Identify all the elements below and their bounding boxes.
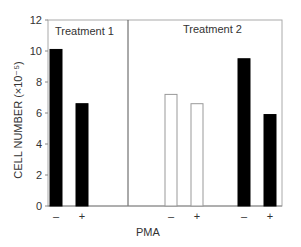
x-tick-label: – bbox=[53, 210, 60, 222]
bar-chart: 024681012 –+–+–+ Treatment 1 Treatment 2… bbox=[0, 0, 301, 247]
bar-1-2 bbox=[76, 104, 88, 206]
x-axis-ticks: –+–+–+ bbox=[53, 210, 273, 222]
bar-2-2 bbox=[191, 104, 203, 206]
y-tick-label: 0 bbox=[36, 200, 42, 212]
panel-label-treatment-1: Treatment 1 bbox=[55, 25, 114, 37]
y-tick-label: 8 bbox=[36, 76, 42, 88]
y-axis-title: CELL NUMBER (×10⁻⁵) bbox=[12, 61, 24, 178]
y-tick-label: 12 bbox=[30, 14, 42, 26]
panel-label-treatment-2: Treatment 2 bbox=[183, 23, 242, 35]
y-axis-ticks: 024681012 bbox=[30, 14, 48, 212]
bar-2-3 bbox=[238, 59, 250, 206]
x-tick-label: + bbox=[79, 210, 85, 222]
x-tick-label: – bbox=[168, 210, 175, 222]
x-tick-label: + bbox=[194, 210, 200, 222]
y-tick-label: 6 bbox=[36, 107, 42, 119]
x-axis-title: PMA bbox=[136, 226, 161, 238]
y-tick-label: 4 bbox=[36, 138, 42, 150]
x-tick-label: – bbox=[241, 210, 248, 222]
y-tick-label: 2 bbox=[36, 169, 42, 181]
y-tick-label: 10 bbox=[30, 45, 42, 57]
x-tick-label: + bbox=[267, 210, 273, 222]
bar-1-1 bbox=[50, 49, 62, 206]
bar-2-4 bbox=[264, 115, 276, 206]
bar-2-1 bbox=[165, 94, 177, 206]
bars-group bbox=[50, 49, 276, 206]
